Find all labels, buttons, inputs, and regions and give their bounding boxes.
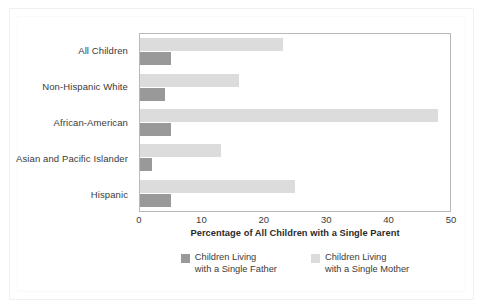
x-axis-title: Percentage of All Children with a Single… bbox=[139, 228, 451, 238]
x-axis-tick-label: 40 bbox=[383, 214, 394, 225]
x-axis-tick-label: 50 bbox=[446, 214, 457, 225]
legend-label-line2: with a Single Mother bbox=[325, 264, 409, 274]
bar-mother bbox=[140, 38, 283, 51]
bar-father bbox=[140, 88, 165, 101]
legend-label-mother: Children Living with a Single Mother bbox=[325, 252, 409, 275]
bar-group-row bbox=[140, 176, 450, 211]
bar-father bbox=[140, 194, 171, 207]
bar-mother bbox=[140, 109, 438, 122]
bar-mother bbox=[140, 180, 295, 193]
plot-area bbox=[139, 33, 451, 212]
x-axis-tick-label: 10 bbox=[196, 214, 207, 225]
legend-swatch-father bbox=[181, 254, 190, 263]
x-axis-tick-label: 0 bbox=[136, 214, 141, 225]
bar-group-row bbox=[140, 69, 450, 104]
legend-swatch-mother bbox=[311, 254, 320, 263]
y-axis-tick-label: Non-Hispanic White bbox=[0, 69, 134, 105]
legend-label-father: Children Living with a Single Father bbox=[195, 252, 277, 275]
legend-label-line1: Children Living bbox=[195, 252, 257, 262]
bar-father bbox=[140, 123, 171, 136]
y-axis-tick-label: Hispanic bbox=[0, 176, 134, 212]
bar-mother bbox=[140, 144, 221, 157]
y-axis-tick-label: Asian and Pacific Islander bbox=[0, 140, 134, 176]
bar-group-row bbox=[140, 140, 450, 175]
y-axis-tick-label: African-American bbox=[0, 105, 134, 141]
y-axis-category-labels: All Children Non-Hispanic White African-… bbox=[0, 33, 134, 212]
legend-label-line2: with a Single Father bbox=[195, 264, 277, 274]
bar-group-row bbox=[140, 105, 450, 140]
x-axis-ticks: 0 10 20 30 40 50 bbox=[139, 214, 451, 228]
bar-group-row bbox=[140, 34, 450, 69]
legend-label-line1: Children Living bbox=[325, 252, 387, 262]
bar-rows bbox=[140, 34, 450, 211]
chart-legend: Children Living with a Single Father Chi… bbox=[139, 252, 451, 275]
chart-figure: All Children Non-Hispanic White African-… bbox=[0, 0, 483, 308]
bar-father bbox=[140, 158, 152, 171]
bar-father bbox=[140, 52, 171, 65]
bar-mother bbox=[140, 74, 239, 87]
legend-item-mother: Children Living with a Single Mother bbox=[311, 252, 409, 275]
legend-item-father: Children Living with a Single Father bbox=[181, 252, 277, 275]
y-axis-tick-label: All Children bbox=[0, 33, 134, 69]
x-axis-tick-label: 30 bbox=[321, 214, 332, 225]
x-axis-tick-label: 20 bbox=[259, 214, 270, 225]
